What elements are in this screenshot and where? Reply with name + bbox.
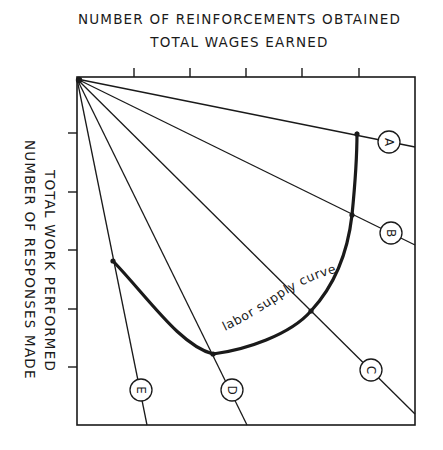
ray-b — [77, 79, 415, 245]
left-axis-ticks — [68, 133, 77, 367]
svg-text:A: A — [382, 138, 396, 147]
ray-label-d: D — [221, 379, 243, 401]
origin-dot — [76, 77, 82, 83]
ray-d — [77, 79, 247, 425]
ray-label-b: B — [380, 222, 402, 244]
labor-supply-diagram: labor supply curve A B C D E — [0, 0, 443, 450]
ray-a — [77, 79, 415, 147]
ray-e — [77, 79, 147, 425]
ray-label-a: A — [378, 131, 400, 153]
svg-text:D: D — [225, 385, 239, 394]
top-axis-ticks — [134, 68, 359, 77]
svg-text:C: C — [364, 366, 378, 374]
ray-label-c: C — [360, 359, 382, 381]
svg-text:E: E — [134, 386, 148, 394]
svg-text:B: B — [384, 229, 398, 237]
ray-label-e: E — [130, 379, 152, 401]
